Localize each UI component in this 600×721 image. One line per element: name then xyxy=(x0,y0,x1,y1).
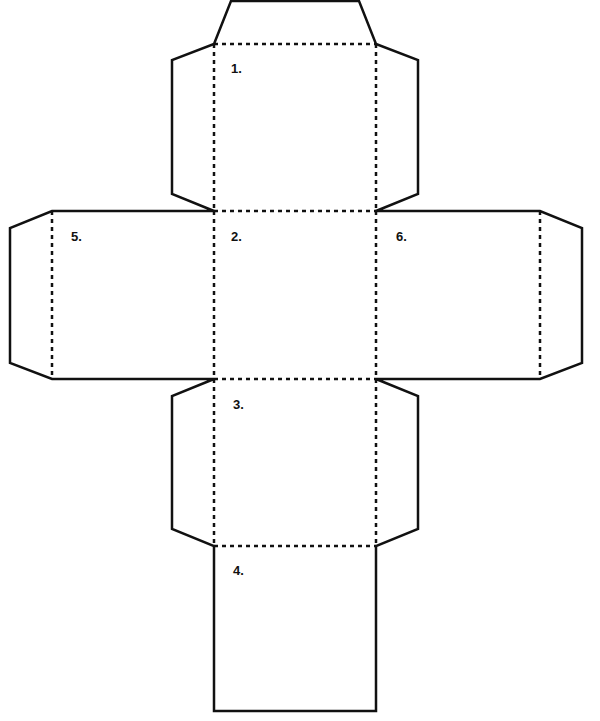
face-label-1: 1. xyxy=(231,61,242,76)
fold-lines xyxy=(52,44,540,546)
face-label-4: 4. xyxy=(233,563,244,578)
face-label-5: 5. xyxy=(71,229,82,244)
face-label-6: 6. xyxy=(396,229,407,244)
cut-outline xyxy=(10,1,582,711)
face-label-2: 2. xyxy=(231,229,242,244)
cube-net-diagram: 1. 2. 3. 4. 5. 6. xyxy=(0,0,600,721)
face-label-3: 3. xyxy=(233,397,244,412)
